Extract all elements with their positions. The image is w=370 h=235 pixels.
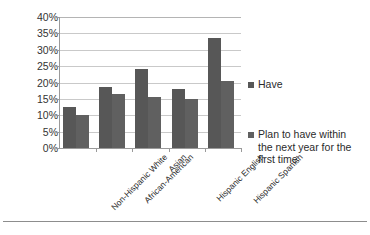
bar [112,94,125,148]
bar-group [205,17,241,148]
y-axis-tick-label: 10% [37,109,58,121]
y-axis-tick-label: 15% [37,93,58,105]
bar [63,107,76,148]
y-axis-tick-label: 35% [37,27,58,39]
legend-item-have: Have [248,78,283,91]
y-axis-tick-label: 25% [37,60,58,72]
bar [172,89,185,148]
bar [135,69,148,148]
bar [99,87,112,148]
y-axis-tick-label: 40% [37,11,58,23]
legend-swatch-icon [248,82,254,88]
bar-group [96,17,132,148]
bar-group [169,17,205,148]
bar-chart: 40%35%30%25%20%15%10%5%0% Non-Hispanic W… [0,0,370,235]
legend-label: Plan to have within the next year for th… [258,128,362,166]
footer-divider [3,221,367,222]
y-axis-labels: 40%35%30%25%20%15%10%5%0% [18,10,58,150]
y-axis-tick-label: 30% [37,44,58,56]
legend-swatch-icon [248,132,254,138]
x-axis-category-labels: Non-Hispanic WhiteAfrican-AmericanAsianH… [59,150,259,220]
bar-group [60,17,96,148]
bars-layer [60,17,241,148]
bar-group [132,17,168,148]
bar [148,97,161,148]
y-axis-tick-mark [56,148,60,149]
bar [208,38,221,148]
bar [185,99,198,148]
legend-item-plan-to-have: Plan to have within the next year for th… [248,128,362,166]
y-axis-tick-label: 20% [37,77,58,89]
chart-plot-wrapper: 40%35%30%25%20%15%10%5%0% Non-Hispanic W… [0,0,370,235]
bar [221,81,234,148]
bar [76,115,89,148]
plot-area [59,17,241,149]
legend-label: Have [258,78,283,91]
x-axis-category-label: African-American [143,152,196,205]
